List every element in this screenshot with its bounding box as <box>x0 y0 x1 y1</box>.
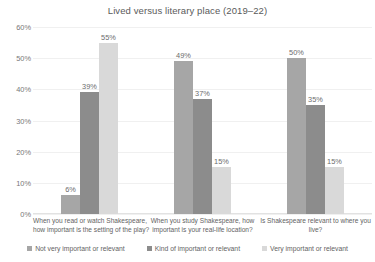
bar-value-label: 50% <box>289 48 304 57</box>
bar[interactable]: 15% <box>325 167 344 214</box>
y-axis-tick-label: 0% <box>1 210 31 219</box>
category-label-line: When you read or watch Shakespeare, <box>33 216 146 225</box>
bar-fill <box>193 99 212 214</box>
legend-swatch-icon <box>27 246 32 251</box>
legend-label: Very important or relevant <box>270 245 348 252</box>
y-axis-tick-label: 40% <box>1 85 31 94</box>
bar-value-label: 15% <box>327 157 342 166</box>
legend-label: Not very important or relevant <box>35 245 125 252</box>
bar[interactable]: 39% <box>80 92 99 214</box>
bar-value-label: 6% <box>65 185 76 194</box>
legend-swatch-icon <box>262 246 267 251</box>
gridline <box>33 214 372 215</box>
y-axis-tick-label: 10% <box>1 178 31 187</box>
y-axis-labels: 0%10%20%30%40%50%60% <box>0 27 31 214</box>
y-axis-tick-label: 50% <box>1 54 31 63</box>
bar-fill <box>306 105 325 214</box>
bar-fill <box>61 195 80 214</box>
category-label-line: important is your real-life location? <box>146 225 259 234</box>
y-axis-tick-label: 30% <box>1 116 31 125</box>
bar-fill <box>325 167 344 214</box>
bar[interactable]: 35% <box>306 105 325 214</box>
category-label-line: Is Shakespeare relevant to where you <box>259 216 372 225</box>
bar[interactable]: 15% <box>212 167 231 214</box>
y-axis-tick-label: 60% <box>1 23 31 32</box>
bar-fill <box>212 167 231 214</box>
bar-fill <box>287 58 306 214</box>
bar-fill <box>99 43 118 214</box>
bar-group: 49%37%15% <box>146 27 259 214</box>
category-label-line: how important is the setting of the play… <box>33 225 146 234</box>
bar[interactable]: 37% <box>193 99 212 214</box>
bar-value-label: 15% <box>214 157 229 166</box>
bar-group: 6%39%55% <box>33 27 146 214</box>
legend-item[interactable]: Very important or relevant <box>262 245 348 252</box>
bar-value-label: 37% <box>195 89 210 98</box>
x-axis-category-label: When you read or watch Shakespeare,how i… <box>33 216 146 234</box>
x-axis-category-label: Is Shakespeare relevant to where youlive… <box>259 216 372 234</box>
chart-legend: Not very important or relevantKind of im… <box>0 245 375 252</box>
legend-item[interactable]: Not very important or relevant <box>27 245 125 252</box>
bar[interactable]: 55% <box>99 43 118 214</box>
bar-value-label: 55% <box>101 33 116 42</box>
legend-label: Kind of important or relevant <box>155 245 240 252</box>
bar-value-label: 49% <box>176 51 191 60</box>
x-axis-category-label: When you study Shakespeare, howimportant… <box>146 216 259 234</box>
plot-area: 6%39%55%49%37%15%50%35%15% <box>33 27 372 214</box>
chart-title: Lived versus literary place (2019–22) <box>0 5 375 16</box>
bar-chart: Lived versus literary place (2019–22) 0%… <box>0 0 375 262</box>
bar-fill <box>80 92 99 214</box>
bar-fill <box>174 61 193 214</box>
bar[interactable]: 6% <box>61 195 80 214</box>
bar-group: 50%35%15% <box>259 27 372 214</box>
legend-item[interactable]: Kind of important or relevant <box>147 245 240 252</box>
x-axis-category-labels: When you read or watch Shakespeare,how i… <box>33 216 372 238</box>
category-label-line: live? <box>259 225 372 234</box>
bar-value-label: 35% <box>308 95 323 104</box>
y-axis-tick-label: 20% <box>1 147 31 156</box>
bar-value-label: 39% <box>82 82 97 91</box>
bar[interactable]: 50% <box>287 58 306 214</box>
category-label-line: When you study Shakespeare, how <box>146 216 259 225</box>
legend-swatch-icon <box>147 246 152 251</box>
bar[interactable]: 49% <box>174 61 193 214</box>
